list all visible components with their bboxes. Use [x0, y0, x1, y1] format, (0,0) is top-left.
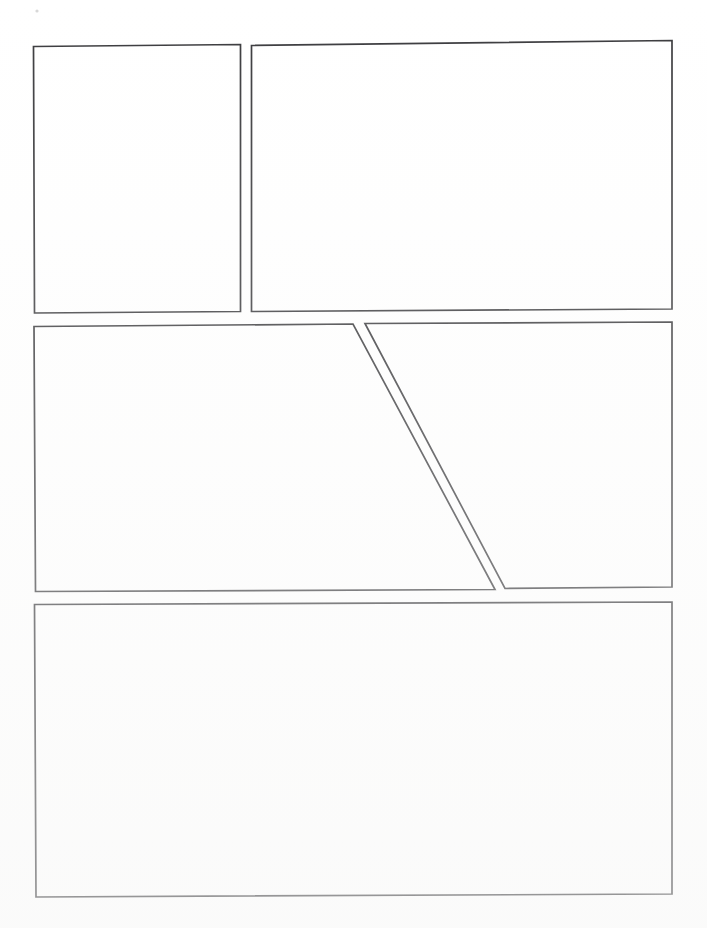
panel-2[interactable]: [252, 41, 673, 312]
comic-page: [0, 0, 707, 928]
scan-speck-icon: [35, 9, 38, 12]
comic-page-canvas: [0, 0, 707, 928]
panel-5[interactable]: [35, 602, 673, 897]
panel-1[interactable]: [34, 45, 241, 314]
